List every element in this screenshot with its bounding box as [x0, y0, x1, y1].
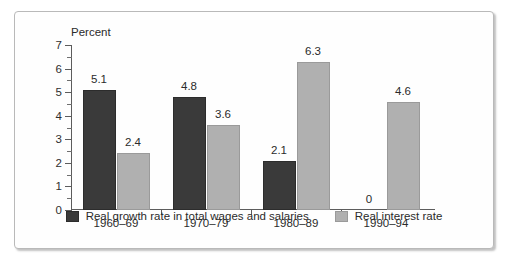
legend-label-interest-rate: Real interest rate	[355, 210, 443, 222]
y-tick-label: 6	[56, 63, 62, 75]
y-tick-major	[65, 92, 72, 93]
y-tick-minor	[67, 104, 72, 105]
y-tick-label: 3	[56, 133, 62, 145]
y-tick-major	[65, 186, 72, 187]
y-axis-title: Percent	[71, 26, 111, 38]
y-tick-label: 5	[56, 86, 62, 98]
chart-figure-frame: Percent 012345675.12.41960–694.83.61970–…	[14, 11, 494, 249]
legend-item-growth-rate: Real growth rate in total wages and sala…	[66, 210, 309, 222]
y-tick-label: 4	[56, 110, 62, 122]
bar-growth-rate	[173, 97, 206, 210]
y-tick-minor	[67, 80, 72, 81]
legend-swatch-dark-icon	[66, 211, 79, 222]
y-tick-major	[65, 116, 72, 117]
y-tick-minor	[67, 175, 72, 176]
y-tick-minor	[67, 57, 72, 58]
bar-interest-rate	[297, 62, 330, 211]
bar-interest-rate	[207, 125, 240, 210]
y-tick-minor	[67, 198, 72, 199]
bar-interest-rate	[387, 102, 420, 210]
bar-value-label: 6.3	[305, 45, 321, 57]
y-tick-minor	[67, 128, 72, 129]
legend-item-interest-rate: Real interest rate	[335, 210, 443, 222]
bar-growth-rate	[263, 161, 296, 211]
bar-interest-rate	[117, 153, 150, 210]
bar-value-label: 4.6	[395, 85, 411, 97]
y-tick-label: 7	[56, 39, 62, 51]
bar-value-label: 2.1	[271, 144, 287, 156]
y-tick-major	[65, 45, 72, 46]
bar-value-label: 5.1	[91, 73, 107, 85]
bar-value-label: 2.4	[125, 136, 141, 148]
y-tick-major	[65, 69, 72, 70]
y-tick-minor	[67, 151, 72, 152]
legend-label-growth-rate: Real growth rate in total wages and sala…	[86, 210, 309, 222]
bar-value-label: 0	[366, 193, 372, 205]
bar-growth-rate	[83, 90, 116, 210]
chart-legend: Real growth rate in total wages and sala…	[15, 210, 493, 222]
legend-swatch-light-icon	[335, 211, 348, 222]
y-tick-label: 2	[56, 157, 62, 169]
plot-area: 012345675.12.41960–694.83.61970–792.16.3…	[71, 45, 431, 210]
bar-value-label: 3.6	[215, 108, 231, 120]
y-tick-label: 1	[56, 180, 62, 192]
bar-value-label: 4.8	[181, 80, 197, 92]
y-tick-major	[65, 163, 72, 164]
y-tick-major	[65, 139, 72, 140]
